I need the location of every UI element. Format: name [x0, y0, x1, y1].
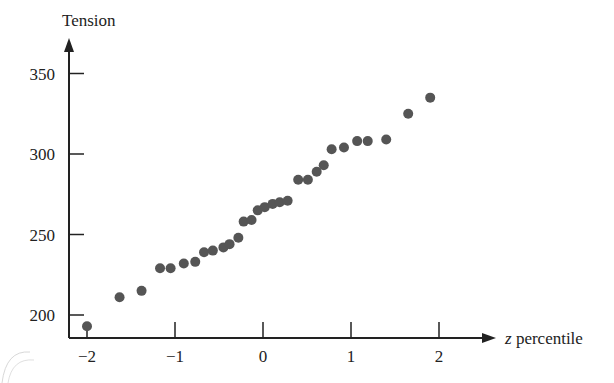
data-point — [208, 246, 218, 256]
data-point — [283, 196, 293, 206]
data-point — [247, 215, 257, 225]
data-point — [82, 321, 92, 331]
data-point — [155, 263, 165, 273]
x-tick-label: 0 — [259, 347, 268, 366]
data-point — [303, 175, 313, 185]
data-point — [352, 136, 362, 146]
y-tick-label: 300 — [30, 145, 56, 164]
x-tick-label: −2 — [78, 347, 96, 366]
data-point — [199, 247, 209, 257]
y-axis-label: Tension — [62, 11, 116, 30]
data-point — [381, 135, 391, 145]
y-tick-label: 250 — [30, 226, 56, 245]
data-point — [327, 144, 337, 154]
x-axis-arrow-icon — [482, 333, 496, 343]
data-point — [403, 109, 413, 119]
x-tick-label: 2 — [435, 347, 444, 366]
decorative-arc — [8, 360, 34, 383]
data-point — [190, 257, 200, 267]
data-points — [82, 93, 435, 332]
decorative-arc — [2, 352, 30, 383]
x-axis-label: z percentile — [504, 329, 583, 348]
data-point — [115, 292, 125, 302]
x-tick-label: 1 — [347, 347, 356, 366]
data-point — [179, 258, 189, 268]
y-tick-label: 350 — [30, 65, 56, 84]
data-point — [233, 233, 243, 243]
x-ticks: −2−1012 — [78, 322, 443, 366]
scatter-chart: Tension z percentile 200250300350 −2−101… — [0, 0, 614, 383]
data-point — [225, 239, 235, 249]
data-point — [339, 143, 349, 153]
data-point — [166, 263, 176, 273]
y-tick-label: 200 — [30, 306, 56, 325]
y-axis-arrow-icon — [64, 38, 74, 52]
data-point — [363, 136, 373, 146]
data-point — [137, 286, 147, 296]
data-point — [293, 175, 303, 185]
x-axis-label-rest: percentile — [512, 329, 583, 348]
data-point — [425, 93, 435, 103]
y-ticks: 200250300350 — [30, 65, 85, 326]
data-point — [319, 160, 329, 170]
x-tick-label: −1 — [166, 347, 184, 366]
